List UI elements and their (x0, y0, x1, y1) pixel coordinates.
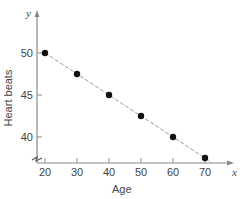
x-tick-label: 60 (167, 166, 179, 178)
axis-break-icon (32, 157, 42, 161)
axis-ticks: 203040506070404550 (21, 47, 211, 178)
x-tick-label: 50 (135, 166, 147, 178)
trend-line (45, 53, 211, 162)
scatter-chart: 203040506070404550 x y Age Heart beats (0, 0, 244, 199)
y-axis-title: Heart beats (2, 69, 14, 126)
trend-line-dashed (45, 53, 211, 162)
data-point (138, 113, 144, 119)
data-point (170, 134, 176, 140)
y-tick-label: 45 (21, 89, 33, 101)
y-axis-variable: y (25, 7, 31, 19)
x-axis-arrow-icon (227, 161, 234, 166)
data-point (106, 92, 112, 98)
data-points (42, 50, 208, 161)
x-tick-label: 20 (39, 166, 51, 178)
data-point (202, 155, 208, 161)
axes (32, 10, 234, 166)
x-tick-label: 40 (103, 166, 115, 178)
x-axis-title: Age (112, 183, 132, 195)
x-axis-variable: x (231, 166, 237, 178)
x-tick-label: 70 (199, 166, 211, 178)
data-point (42, 50, 48, 56)
y-tick-label: 50 (21, 47, 33, 59)
x-tick-label: 30 (71, 166, 83, 178)
data-point (74, 71, 80, 77)
y-axis-arrow-icon (35, 10, 40, 17)
y-tick-label: 40 (21, 131, 33, 143)
